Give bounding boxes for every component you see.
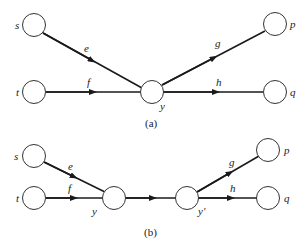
panel-a: s t y p q e f g h (a) bbox=[15, 13, 296, 131]
node-label-q: q bbox=[290, 86, 296, 98]
node-label-p-b: p bbox=[283, 144, 290, 156]
edge-label-f-b: f bbox=[68, 182, 73, 194]
node-label-t: t bbox=[16, 86, 20, 98]
caption-b: (b) bbox=[144, 226, 157, 239]
node-p-b bbox=[257, 139, 280, 162]
edge-label-f: f bbox=[87, 76, 92, 88]
node-s bbox=[23, 14, 46, 37]
caption-a: (a) bbox=[145, 117, 158, 130]
edge-label-e: e bbox=[84, 42, 89, 54]
node-label-s-b: s bbox=[14, 150, 18, 162]
edge-g bbox=[162, 31, 265, 85]
node-label-p: p bbox=[289, 18, 296, 30]
node-label-yprime-b: y' bbox=[197, 205, 206, 217]
node-q-b bbox=[257, 187, 280, 210]
edge-label-h: h bbox=[216, 76, 222, 88]
node-label-s: s bbox=[15, 19, 19, 31]
node-t bbox=[23, 81, 46, 104]
node-label-y: y bbox=[159, 100, 165, 112]
node-label-t-b: t bbox=[16, 192, 20, 204]
node-s-b bbox=[23, 145, 46, 168]
edge-g-b bbox=[197, 156, 259, 192]
node-label-q-b: q bbox=[284, 192, 290, 204]
edge-label-e-b: e bbox=[68, 160, 73, 172]
panel-b: s t y y' p q e f g h (b) bbox=[14, 139, 290, 240]
node-p bbox=[264, 13, 287, 36]
node-q bbox=[264, 81, 287, 104]
edge-e-b bbox=[44, 162, 105, 192]
node-t-b bbox=[23, 187, 46, 210]
node-yprime-b bbox=[176, 187, 199, 210]
edge-label-g: g bbox=[215, 37, 221, 49]
node-label-y-b: y bbox=[91, 205, 97, 217]
edge-label-g-b: g bbox=[229, 156, 235, 168]
edge-label-h-b: h bbox=[230, 182, 236, 194]
edge-e bbox=[43, 33, 142, 88]
flow-diagram: s t y p q e f g h (a) bbox=[0, 0, 308, 242]
node-y-b bbox=[103, 187, 126, 210]
